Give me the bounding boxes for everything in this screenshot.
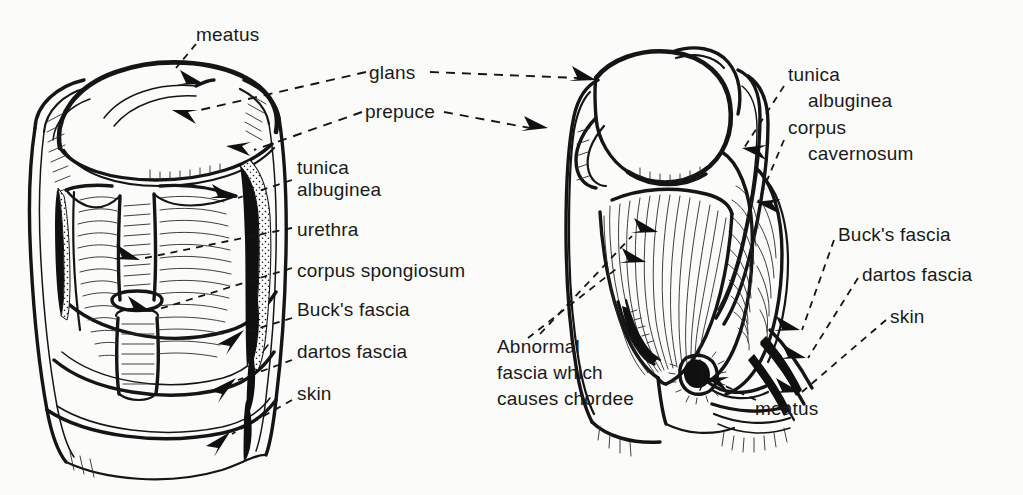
label-right-tunica-albuginea-line1: tunica <box>788 64 840 85</box>
label-left-meatus: meatus <box>196 24 260 45</box>
label-right-tunica-albuginea-line2: albuginea <box>808 90 892 111</box>
label-left-tunica-albuginea-line2: albuginea <box>297 179 381 200</box>
label-prepuce: prepuce <box>365 101 435 122</box>
label-right-corpus-cavernosum-line2: cavernosum <box>808 143 914 164</box>
label-left-tunica-albuginea-line1: tunica <box>297 157 349 178</box>
anatomical-figure: .s{fill:none;stroke:#151515;stroke-linec… <box>0 0 1023 495</box>
label-right-corpus-cavernosum-line1: corpus <box>788 117 846 138</box>
label-right-meatus: meatus <box>755 398 819 419</box>
label-glans: glans <box>369 62 415 83</box>
figure-linework: .s{fill:none;stroke:#151515;stroke-linec… <box>0 0 1023 495</box>
label-left-corpus-spongiosum: corpus spongiosum <box>297 260 465 281</box>
label-right-skin: skin <box>890 306 925 327</box>
label-left-skin: skin <box>297 383 332 404</box>
label-left-urethra: urethra <box>297 219 359 240</box>
label-right-dartos-fascia: dartos fascia <box>862 264 972 285</box>
label-abnormal-fascia-chordee: Abnormal fascia which causes chordee <box>497 334 634 412</box>
left-panel-drawing <box>30 62 287 479</box>
label-left-dartos-fascia: dartos fascia <box>297 341 407 362</box>
label-left-bucks-fascia: Buck's fascia <box>297 299 410 320</box>
label-right-bucks-fascia: Buck's fascia <box>838 224 951 245</box>
